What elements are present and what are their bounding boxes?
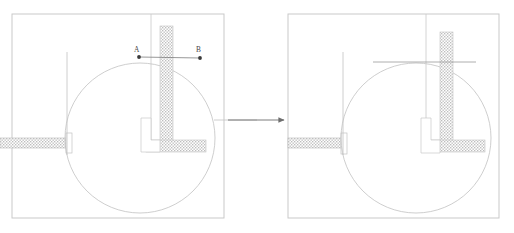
left-panel-detail-circle bbox=[65, 63, 215, 213]
point-b-label: B bbox=[196, 45, 201, 54]
left-panel-measure-line bbox=[139, 57, 200, 58]
right-panel-detail-circle bbox=[341, 63, 491, 213]
left-panel-base-step bbox=[141, 118, 160, 152]
right-panel-base-step bbox=[421, 118, 440, 153]
point-a-label: A bbox=[134, 45, 140, 54]
right-panel-beam bbox=[288, 138, 342, 148]
right-panel-column-stem bbox=[440, 32, 453, 142]
point-a-marker bbox=[137, 55, 141, 59]
figure-root: A B bbox=[0, 0, 514, 233]
right-panel-frame bbox=[288, 14, 499, 218]
left-panel: A B bbox=[0, 14, 257, 218]
left-panel-frame bbox=[12, 14, 224, 218]
left-panel-beam bbox=[0, 138, 66, 148]
cad-diagram-svg: A B bbox=[0, 0, 514, 233]
point-b-marker bbox=[198, 56, 202, 60]
right-panel bbox=[288, 14, 499, 218]
left-panel-column-stem bbox=[160, 26, 173, 142]
